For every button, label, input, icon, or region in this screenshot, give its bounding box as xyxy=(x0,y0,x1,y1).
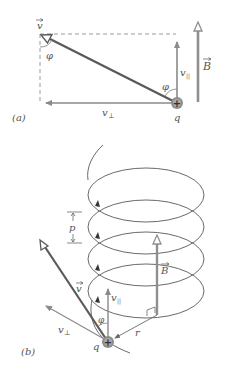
hollow-arrowhead-icon xyxy=(153,235,161,244)
charge-label-b: q xyxy=(93,341,99,352)
helix-path xyxy=(88,145,204,353)
hollow-arrowhead-icon xyxy=(41,35,52,44)
velocity-label-b: v xyxy=(76,283,82,294)
v-perp-vector-b xyxy=(46,306,106,340)
panel-a: + v φ φ v || v ⊥ B q (a) xyxy=(12,19,211,124)
field-label-b: B xyxy=(160,265,168,276)
panel-label-b: (b) xyxy=(21,346,35,357)
velocity-vector-a xyxy=(41,35,175,103)
panel-b: p r v ⊥ v || v xyxy=(21,145,204,357)
helical-motion-diagram: + v φ φ v || v ⊥ B q (a) xyxy=(0,0,235,365)
magnetic-field-vector-b xyxy=(153,235,161,315)
plus-sign: + xyxy=(104,337,112,348)
charge-q-b: + xyxy=(102,336,114,348)
panel-label-a: (a) xyxy=(12,112,26,123)
right-angle-marker xyxy=(147,307,155,316)
angle-label-bottom-a: φ xyxy=(162,81,169,92)
charge-q-a: + xyxy=(171,97,183,109)
v-parallel-subscript-b: || xyxy=(117,297,121,305)
helix-direction-arrows xyxy=(95,200,100,303)
plus-sign: + xyxy=(173,98,181,109)
v-perp-subscript-a: ⊥ xyxy=(108,112,115,120)
angle-label-top-a: φ xyxy=(46,50,53,61)
magnetic-field-vector-a xyxy=(194,22,202,102)
charge-label-a: q xyxy=(174,112,180,123)
radius-label: r xyxy=(135,327,141,338)
hollow-arrowhead-icon xyxy=(194,22,202,31)
velocity-vector-b xyxy=(40,240,106,339)
velocity-label-a: v xyxy=(37,20,43,31)
v-parallel-subscript-a: || xyxy=(186,72,190,80)
pitch-label: p xyxy=(69,222,76,233)
v-perp-subscript-b: ⊥ xyxy=(64,329,71,337)
field-label-a: B xyxy=(202,60,211,73)
angle-label-b: φ xyxy=(98,315,105,325)
